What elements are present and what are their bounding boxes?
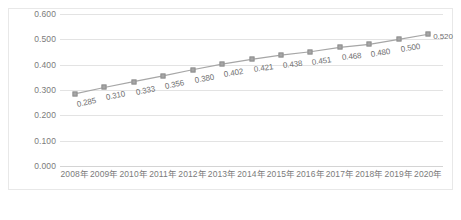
data-point-label: 0.520 — [433, 33, 453, 41]
plot-area: 0.2850.3100.3330.3560.3800.4020.4210.438… — [60, 14, 443, 166]
x-tick-label: 2019年 — [385, 170, 413, 179]
x-tick-label: 2011年 — [149, 170, 177, 179]
x-tick-label: 2014年 — [237, 170, 265, 179]
x-tick-label: 2013年 — [208, 170, 236, 179]
gridline — [60, 166, 443, 167]
data-point-marker — [161, 73, 166, 78]
x-tick-label: 2009年 — [90, 170, 118, 179]
x-tick-label: 2008年 — [61, 170, 89, 179]
data-point-marker — [102, 85, 107, 90]
y-tick-label: 0.200 — [10, 111, 56, 120]
data-point-marker — [426, 32, 431, 37]
data-point-marker — [278, 53, 283, 58]
x-tick-label: 2018年 — [355, 170, 383, 179]
data-point-marker — [190, 67, 195, 72]
data-point-marker — [396, 37, 401, 42]
y-tick-label: 0.500 — [10, 35, 56, 44]
data-point-marker — [337, 45, 342, 50]
data-point-marker — [249, 57, 254, 62]
data-point-marker — [220, 62, 225, 67]
y-tick-label: 0.300 — [10, 86, 56, 95]
y-tick-label: 0.100 — [10, 136, 56, 145]
data-point-marker — [131, 79, 136, 84]
x-tick-label: 2010年 — [119, 170, 147, 179]
y-tick-label: 0.400 — [10, 60, 56, 69]
y-tick-label: 0.000 — [10, 162, 56, 171]
y-tick-label: 0.600 — [10, 10, 56, 19]
data-point-marker — [367, 42, 372, 47]
data-point-marker — [308, 49, 313, 54]
chart-figure: 0.0000.1000.2000.3000.4000.5000.600 0.28… — [0, 0, 461, 220]
x-tick-label: 2015年 — [267, 170, 295, 179]
x-tick-label: 2016年 — [296, 170, 324, 179]
x-tick-label: 2017年 — [326, 170, 354, 179]
y-axis: 0.0000.1000.2000.3000.4000.5000.600 — [4, 14, 56, 166]
data-point-marker — [72, 91, 77, 96]
x-axis: 2008年2009年2010年2011年2012年2013年2014年2015年… — [60, 170, 443, 184]
x-tick-label: 2020年 — [414, 170, 442, 179]
x-tick-label: 2012年 — [178, 170, 206, 179]
